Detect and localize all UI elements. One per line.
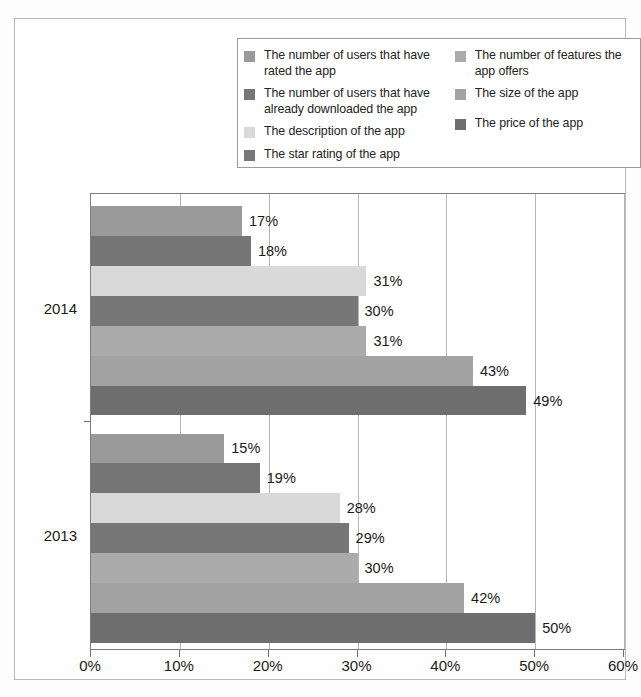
chart-legend: The number of users that have rated the … <box>237 38 641 168</box>
x-axis-label: 30% <box>341 657 371 674</box>
chart-figure-frame: The number of users that have rated the … <box>14 18 626 680</box>
gridline <box>624 194 625 649</box>
bar-row: 17% <box>91 206 624 236</box>
bar-row: 31% <box>91 266 624 296</box>
x-axis-tick <box>623 650 624 657</box>
bar-value-label: 18% <box>251 243 287 259</box>
chart-y-axis: 20142013 <box>15 193 90 650</box>
x-axis-tick <box>357 650 358 657</box>
y-axis-label-2014: 2014 <box>44 299 77 316</box>
bar[interactable] <box>91 266 366 296</box>
chart-bars-layer: 17%18%31%30%31%43%49%15%19%28%29%30%42%5… <box>91 194 624 649</box>
bar[interactable] <box>91 583 464 613</box>
bar-row: 43% <box>91 356 624 386</box>
bar-value-label: 17% <box>242 213 278 229</box>
bar-row: 31% <box>91 326 624 356</box>
x-axis-label: 60% <box>608 657 638 674</box>
legend-item[interactable]: The description of the app <box>244 124 455 140</box>
bar-row: 50% <box>91 613 624 643</box>
bar-value-label: 28% <box>340 500 376 516</box>
chart-plot-area: 17%18%31%30%31%43%49%15%19%28%29%30%42%5… <box>90 193 625 650</box>
bar-value-label: 31% <box>366 272 402 288</box>
bar-group-2013: 15%19%28%29%30%42%50% <box>91 422 624 650</box>
bar-value-label: 30% <box>358 560 394 576</box>
x-axis-label: 0% <box>79 657 101 674</box>
x-axis-label: 50% <box>519 657 549 674</box>
bar[interactable] <box>91 356 473 386</box>
x-axis-tick <box>534 650 535 657</box>
x-axis-tick <box>90 650 91 657</box>
bar[interactable] <box>91 386 526 416</box>
bar[interactable] <box>91 493 340 523</box>
bar[interactable] <box>91 206 242 236</box>
legend-column-left: The number of users that have rated the … <box>244 48 455 176</box>
bar[interactable] <box>91 463 260 493</box>
x-axis-tick <box>445 650 446 657</box>
legend-swatch-icon <box>244 127 255 138</box>
bar-value-label: 31% <box>366 332 402 348</box>
bar-group-2014: 17%18%31%30%31%43%49% <box>91 194 624 422</box>
bar[interactable] <box>91 296 358 326</box>
bar[interactable] <box>91 236 251 266</box>
legend-swatch-icon <box>244 51 255 62</box>
y-axis-tick <box>84 421 90 422</box>
x-axis-label: 20% <box>253 657 283 674</box>
legend-column-right: The number of features the app offersThe… <box>455 48 634 138</box>
x-axis-tick <box>179 650 180 657</box>
legend-item[interactable]: The number of users that have already do… <box>244 86 455 117</box>
x-axis-label: 40% <box>430 657 460 674</box>
legend-item-label: The number of users that have already do… <box>264 86 455 117</box>
bar-row: 15% <box>91 434 624 464</box>
legend-swatch-icon <box>455 119 466 130</box>
bar[interactable] <box>91 523 349 553</box>
legend-swatch-icon <box>455 51 466 62</box>
legend-item[interactable]: The price of the app <box>455 116 634 132</box>
legend-swatch-icon <box>455 89 466 100</box>
legend-item[interactable]: The number of features the app offers <box>455 48 634 79</box>
bar-row: 30% <box>91 296 624 326</box>
legend-swatch-icon <box>244 89 255 100</box>
bar-value-label: 49% <box>526 392 562 408</box>
bar-value-label: 50% <box>535 620 571 636</box>
legend-item[interactable]: The number of users that have rated the … <box>244 48 455 79</box>
x-axis-label: 10% <box>164 657 194 674</box>
bar-value-label: 19% <box>260 470 296 486</box>
legend-item-label: The price of the app <box>475 116 583 132</box>
bar-row: 28% <box>91 493 624 523</box>
bar-row: 18% <box>91 236 624 266</box>
legend-item-label: The number of features the app offers <box>475 48 634 79</box>
bar-value-label: 42% <box>464 590 500 606</box>
bar-row: 49% <box>91 386 624 416</box>
legend-item[interactable]: The size of the app <box>455 86 634 102</box>
legend-item-label: The star rating of the app <box>264 147 400 163</box>
legend-item-label: The description of the app <box>264 124 405 140</box>
bar-row: 29% <box>91 523 624 553</box>
y-axis-label-2013: 2013 <box>44 527 77 544</box>
bar[interactable] <box>91 553 358 583</box>
chart-x-axis: 0%10%20%30%40%50%60% <box>90 657 625 683</box>
legend-item-label: The number of users that have rated the … <box>264 48 455 79</box>
bar-value-label: 43% <box>473 362 509 378</box>
bar-value-label: 29% <box>349 530 385 546</box>
bar-value-label: 30% <box>358 302 394 318</box>
bar-value-label: 15% <box>224 440 260 456</box>
bar[interactable] <box>91 613 535 643</box>
bar[interactable] <box>91 434 224 464</box>
bar-row: 19% <box>91 463 624 493</box>
bar[interactable] <box>91 326 366 356</box>
x-axis-tick <box>268 650 269 657</box>
bar-row: 42% <box>91 583 624 613</box>
legend-swatch-icon <box>244 150 255 161</box>
bar-row: 30% <box>91 553 624 583</box>
legend-item[interactable]: The star rating of the app <box>244 147 455 163</box>
legend-item-label: The size of the app <box>475 86 579 102</box>
